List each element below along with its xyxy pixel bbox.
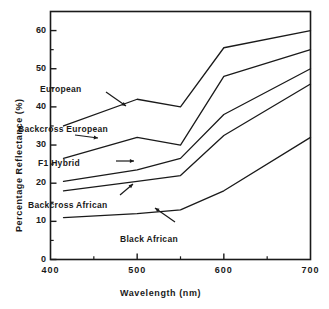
- series-line-backcross-african: [64, 84, 311, 191]
- arrow-head-icon: [130, 159, 134, 163]
- series-line-european: [64, 31, 311, 126]
- y-tick-label: 50: [22, 63, 46, 73]
- y-tick-label: 10: [22, 215, 46, 225]
- x-tick-label: 500: [117, 265, 157, 275]
- series-label-backcross-european: Backcross European: [18, 124, 108, 134]
- x-tick-label: 700: [291, 265, 329, 275]
- chart-plot-area: [0, 0, 329, 309]
- y-axis-title: Percentage Reflectance (%): [14, 98, 24, 232]
- y-tick-label: 60: [22, 25, 46, 35]
- y-tick-label: 20: [22, 177, 46, 187]
- series-label-european: European: [40, 84, 82, 94]
- series-line-backcross-european: [64, 50, 311, 159]
- series-label-backcross-african: Backcross African: [28, 200, 107, 210]
- y-tick-label: 30: [22, 139, 46, 149]
- axis-ticks: [51, 31, 268, 260]
- series-label-f1-hybrid: F1 Hybrid: [38, 158, 80, 168]
- figure-container: 0102030405060 400500600700 EuropeanBackc…: [0, 0, 329, 309]
- y-tick-label: 40: [22, 101, 46, 111]
- x-tick-label: 600: [204, 265, 244, 275]
- y-tick-label: 0: [22, 254, 46, 264]
- axis-frame: [51, 12, 311, 260]
- x-tick-label: 400: [31, 265, 71, 275]
- x-axis-title: Wavelength (nm): [120, 288, 201, 298]
- series-label-black-african: Black African: [120, 234, 178, 244]
